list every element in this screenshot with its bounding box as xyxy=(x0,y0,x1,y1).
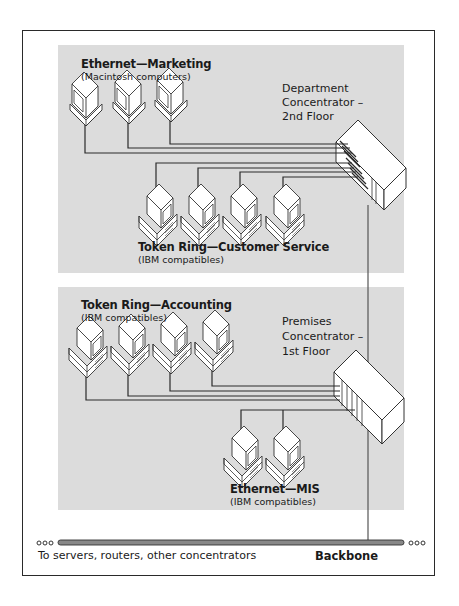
backbone-cable xyxy=(37,540,425,545)
premises-concentrator-device xyxy=(334,350,404,444)
accounting-subtitle: (IBM compatibles) xyxy=(81,312,167,323)
premises-concentrator-label-2: Concentrator – xyxy=(282,330,363,344)
marketing-subtitle: (Macintosh computers) xyxy=(81,71,191,82)
department-concentrator-label-3: 2nd Floor xyxy=(282,110,334,124)
mis-subtitle: (IBM compatibles) xyxy=(230,496,316,507)
premises-concentrator-label-1: Premises xyxy=(282,315,332,329)
premises-concentrator-label-3: 1st Floor xyxy=(282,345,330,359)
backbone-label: Backbone xyxy=(315,549,378,563)
department-concentrator-device xyxy=(336,120,406,210)
marketing-title: Ethernet—Marketing xyxy=(81,57,211,71)
accounting-title: Token Ring—Accounting xyxy=(81,298,232,312)
customer-service-subtitle: (IBM compatibles) xyxy=(138,254,224,265)
department-concentrator-label-2: Concentrator – xyxy=(282,96,363,110)
department-concentrator-label-1: Department xyxy=(282,82,349,96)
backbone-caption: To servers, routers, other concentrators xyxy=(38,549,256,562)
mis-title: Ethernet—MIS xyxy=(230,482,320,496)
customer-service-title: Token Ring—Customer Service xyxy=(138,240,329,254)
